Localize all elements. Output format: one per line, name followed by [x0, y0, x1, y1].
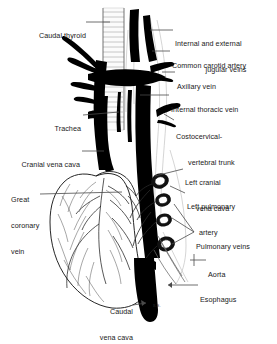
label-line: coronary [11, 222, 51, 231]
label-line: Costocervical- [176, 133, 277, 142]
label-line: Trachea [0, 125, 81, 134]
label-caudal-vena-cava: Caudal vena cava [76, 291, 133, 344]
label-caudal-thyroid: Caudal thyroid [0, 15, 86, 58]
label-line: Pulmonary veins [196, 243, 277, 252]
label-line: Caudal [76, 308, 133, 317]
label-line: Esophagus [200, 296, 277, 305]
label-line: vein [11, 248, 51, 257]
artist-signature: R.S. [153, 303, 161, 308]
label-esophagus: Esophagus [200, 279, 277, 322]
label-line: vena cava [76, 334, 133, 343]
label-line: Internal thoracic vein [171, 106, 277, 115]
label-great-coronary-vein: Great coronary vein [0, 179, 51, 274]
label-line: Caudal thyroid [0, 32, 86, 41]
label-line: Great [11, 196, 51, 205]
label-line: Left pulmonary [187, 203, 277, 212]
label-line: Cranial vena cava [0, 161, 80, 170]
